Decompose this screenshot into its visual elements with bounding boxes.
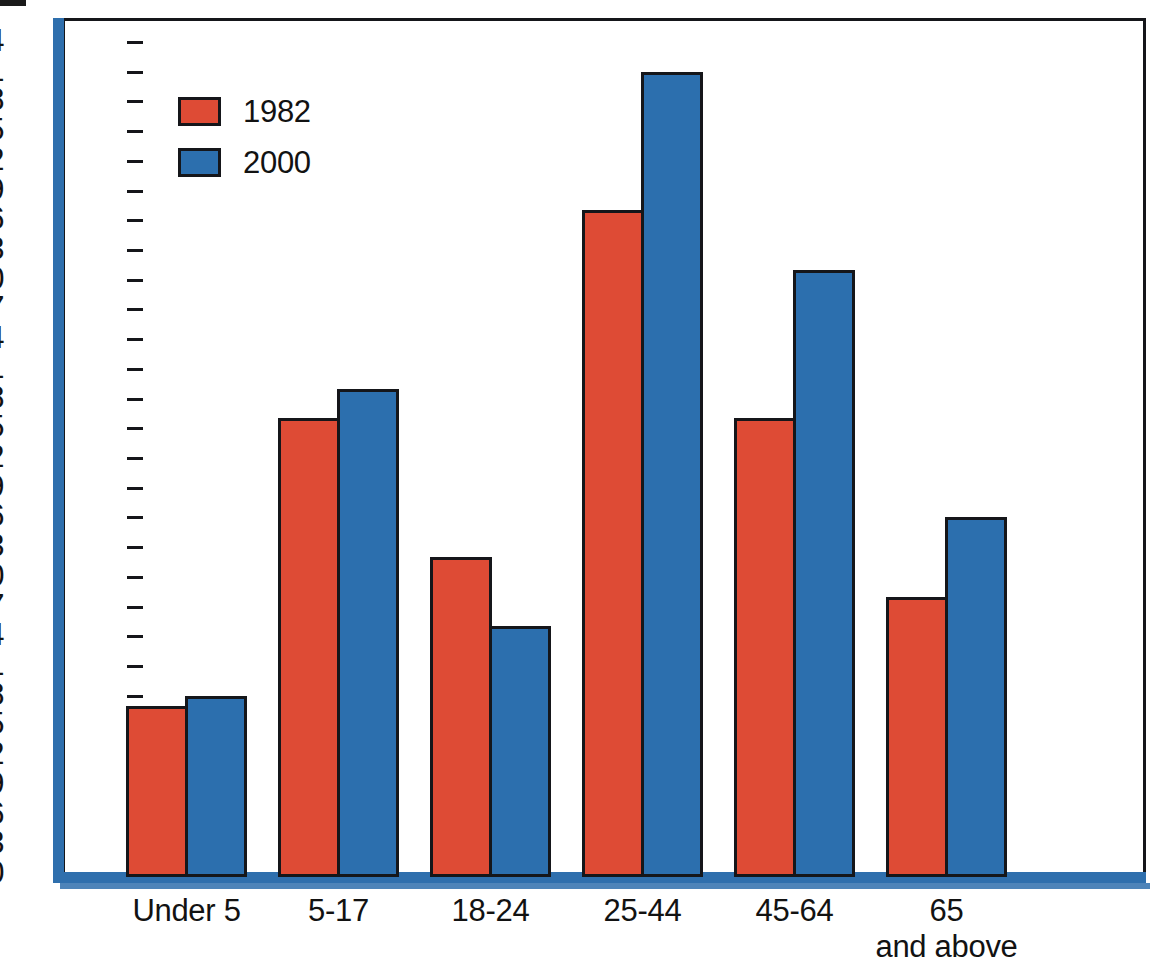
bar-1982-25-44 bbox=[582, 210, 644, 877]
bar-1982-18-24 bbox=[430, 557, 492, 877]
bar-1982-65-and-above bbox=[886, 597, 948, 877]
x-axis-label: 65 and above bbox=[837, 893, 1057, 965]
legend: 1982 2000 bbox=[178, 96, 311, 198]
bar-chart: 0369121518212427303336394245485154576063… bbox=[0, 0, 1172, 971]
legend-item-2000[interactable]: 2000 bbox=[178, 147, 311, 178]
bar-1982-45-64 bbox=[734, 418, 796, 877]
legend-label-2000: 2000 bbox=[243, 147, 311, 178]
bars-layer bbox=[0, 0, 1172, 971]
legend-label-1982: 1982 bbox=[243, 96, 311, 127]
bar-1982-Under-5 bbox=[126, 706, 188, 877]
bar-2000-18-24 bbox=[489, 626, 551, 877]
bar-1982-5-17 bbox=[278, 418, 340, 877]
legend-item-1982[interactable]: 1982 bbox=[178, 96, 311, 127]
legend-swatch-2000 bbox=[178, 148, 221, 177]
bar-2000-Under-5 bbox=[185, 696, 247, 877]
bar-2000-65-and-above bbox=[945, 517, 1007, 877]
bar-2000-45-64 bbox=[793, 270, 855, 877]
bar-2000-25-44 bbox=[641, 72, 703, 877]
bar-2000-5-17 bbox=[337, 389, 399, 877]
legend-swatch-1982 bbox=[178, 97, 221, 126]
